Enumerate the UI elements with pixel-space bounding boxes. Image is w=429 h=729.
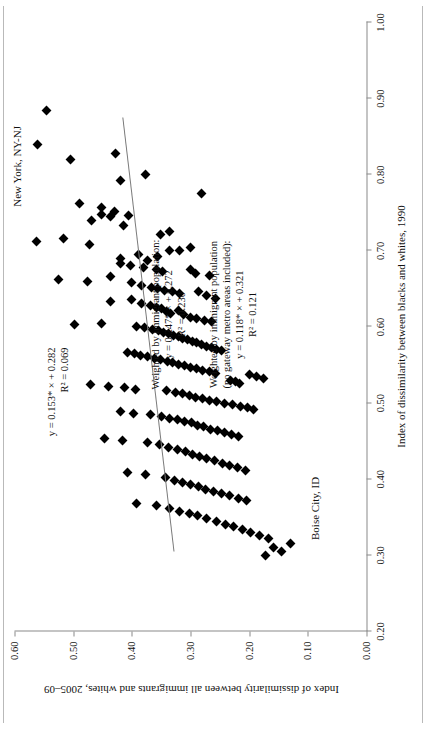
data-point	[105, 296, 115, 306]
y-tick	[14, 631, 15, 636]
data-point	[53, 274, 63, 284]
x-tick-label: 0.30	[374, 546, 385, 564]
data-point	[69, 319, 79, 329]
data-point	[118, 220, 128, 230]
data-point	[125, 260, 135, 270]
data-point	[285, 539, 295, 549]
data-point	[140, 169, 150, 179]
x-tick	[366, 554, 371, 555]
data-point	[103, 381, 113, 391]
data-point	[96, 318, 106, 328]
y-tick	[190, 631, 191, 636]
point-label-new-york: New York, NY-NJ	[10, 126, 22, 207]
rotated-figure-container: Index of dissimilarity between blacks an…	[0, 0, 429, 729]
y-tick-label: 0.10	[302, 641, 313, 659]
data-point	[58, 233, 68, 243]
x-tick	[366, 402, 371, 403]
data-point	[96, 209, 106, 219]
data-point	[140, 469, 150, 479]
data-point	[117, 435, 127, 445]
x-axis-title: Index of dissimilarity between blacks an…	[394, 21, 406, 631]
data-point	[84, 239, 94, 249]
y-tick-label: 0.00	[361, 641, 372, 659]
data-point	[201, 513, 211, 523]
data-point	[115, 175, 125, 185]
y-axis-title: Index of dissimilarity between all immig…	[15, 682, 367, 695]
y-tick-label: 0.50	[67, 641, 78, 659]
y-tick	[73, 631, 74, 636]
data-point	[74, 198, 84, 208]
data-point	[196, 188, 206, 198]
annotation-unweighted-fit: y = 0.153* × + 0.282 R² = 0.069	[44, 347, 70, 497]
data-point	[163, 442, 173, 452]
data-point	[31, 236, 41, 246]
x-tick	[366, 249, 371, 250]
y-tick-label: 0.20	[243, 641, 254, 659]
x-tick-label: 0.60	[374, 317, 385, 335]
data-point	[41, 105, 51, 115]
x-tick-label: 0.90	[374, 89, 385, 107]
y-tick	[307, 631, 308, 636]
x-tick-label: 0.40	[374, 470, 385, 488]
point-label-boise-city: Boise City, ID	[308, 476, 320, 539]
data-point	[126, 294, 136, 304]
data-point	[260, 550, 270, 560]
y-tick-label: 0.60	[9, 641, 20, 659]
data-point	[105, 271, 115, 281]
x-tick	[366, 173, 371, 174]
x-tick	[366, 326, 371, 327]
annotation-weighted-no-gateway-fit: Weighted by immigrant population (no gat…	[206, 199, 258, 429]
x-tick	[366, 97, 371, 98]
y-tick	[131, 631, 132, 636]
data-point	[119, 382, 129, 392]
data-point	[174, 506, 184, 516]
x-tick-label: 0.70	[374, 241, 385, 259]
data-point	[65, 154, 75, 164]
x-tick-label: 1.00	[374, 13, 385, 31]
data-point	[131, 498, 141, 508]
x-tick-label: 0.80	[374, 165, 385, 183]
annotation-weighted-fit: Weighted by immigrant population: y = 0.…	[148, 199, 187, 429]
data-point	[123, 210, 133, 220]
data-point	[122, 467, 132, 477]
x-tick	[366, 478, 371, 479]
data-point	[85, 379, 95, 389]
data-point	[128, 408, 138, 418]
x-tick-label: 0.50	[374, 393, 385, 411]
data-point	[142, 437, 152, 447]
scatter-chart-figure: Index of dissimilarity between blacks an…	[0, 0, 429, 729]
data-point	[184, 508, 194, 518]
data-point	[82, 276, 92, 286]
data-point	[130, 384, 140, 394]
y-tick-label: 0.30	[185, 641, 196, 659]
data-point	[115, 406, 125, 416]
x-tick-label: 0.20	[374, 622, 385, 640]
y-tick-label: 0.40	[126, 641, 137, 659]
y-tick	[249, 631, 250, 636]
data-point	[33, 139, 43, 149]
data-point	[172, 444, 182, 454]
data-point	[151, 500, 161, 510]
data-point	[99, 433, 109, 443]
x-tick	[366, 21, 371, 22]
y-tick	[366, 631, 367, 636]
data-point	[111, 148, 121, 158]
data-point	[169, 475, 179, 485]
data-point	[126, 277, 136, 287]
data-point	[86, 215, 96, 225]
